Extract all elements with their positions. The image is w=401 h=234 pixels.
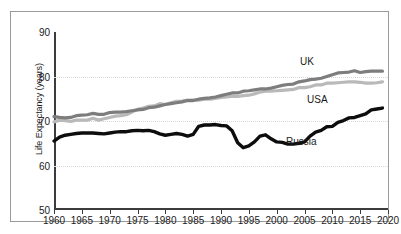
x-tick-mark-2010 xyxy=(332,210,333,214)
series-line-uk xyxy=(54,71,382,118)
x-tick-label-1985: 1985 xyxy=(182,215,204,226)
x-tick-label-2005: 2005 xyxy=(293,215,315,226)
x-tick-label-1980: 1980 xyxy=(154,215,176,226)
x-tick-mark-2015 xyxy=(360,210,361,214)
y-tick-label-80: 80 xyxy=(39,71,50,82)
x-tick-mark-1980 xyxy=(165,210,166,214)
series-label-russia: Russia xyxy=(286,136,317,147)
x-tick-label-1995: 1995 xyxy=(238,215,260,226)
x-tick-mark-1960 xyxy=(54,210,55,214)
x-tick-mark-1975 xyxy=(138,210,139,214)
y-tick-label-90: 90 xyxy=(39,27,50,38)
x-tick-mark-1965 xyxy=(82,210,83,214)
chart-screenshot: Life Expectancy (years) 5060708090 19601… xyxy=(0,0,401,234)
x-tick-label-2000: 2000 xyxy=(266,215,288,226)
y-tick-label-70: 70 xyxy=(39,116,50,127)
plot-area: 5060708090 19601965197019751980198519901… xyxy=(54,32,388,210)
x-tick-label-1965: 1965 xyxy=(71,215,93,226)
x-tick-label-1975: 1975 xyxy=(126,215,148,226)
x-tick-mark-2020 xyxy=(388,210,389,214)
x-tick-mark-1990 xyxy=(221,210,222,214)
x-tick-label-1990: 1990 xyxy=(210,215,232,226)
series-lines xyxy=(54,32,388,210)
x-tick-label-1970: 1970 xyxy=(99,215,121,226)
x-tick-mark-1970 xyxy=(110,210,111,214)
x-tick-mark-2005 xyxy=(305,210,306,214)
x-tick-label-2010: 2010 xyxy=(321,215,343,226)
series-label-usa: USA xyxy=(307,94,328,105)
x-tick-mark-1995 xyxy=(249,210,250,214)
x-tick-label-2015: 2015 xyxy=(349,215,371,226)
x-tick-label-2020: 2020 xyxy=(377,215,399,226)
x-tick-label-1960: 1960 xyxy=(43,215,65,226)
x-tick-mark-2000 xyxy=(277,210,278,214)
figure-frame: Life Expectancy (years) 5060708090 19601… xyxy=(10,11,389,222)
x-tick-mark-1985 xyxy=(193,210,194,214)
y-tick-label-60: 60 xyxy=(39,160,50,171)
series-label-uk: UK xyxy=(300,56,314,67)
y-tick-label-50: 50 xyxy=(39,205,50,216)
